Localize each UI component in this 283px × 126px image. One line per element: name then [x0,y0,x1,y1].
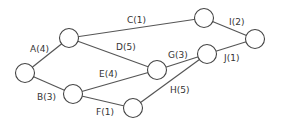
network-diagram: A(4) B(3) C(1) D(5) E(4) F(1) G(3) H(5) … [0,0,283,126]
node-5 [148,61,167,80]
node-4 [124,99,143,118]
edge-label-d: D(5) [116,42,136,52]
node-1 [16,64,35,83]
edge-label-b: B(3) [37,92,56,102]
node-6 [195,9,214,28]
node-3 [64,85,83,104]
edge-label-c: C(1) [127,15,146,25]
edge-d [69,38,157,70]
edge-h [133,54,207,108]
edge-label-g: G(3) [168,50,188,60]
edge-label-a: A(4) [30,44,49,54]
edge-label-e: E(4) [99,69,117,79]
edge-label-f: F(1) [96,107,114,117]
edge-label-j: J(1) [223,53,239,63]
edge-label-i: I(2) [229,17,244,27]
edge-label-h: H(5) [170,85,190,95]
node-2 [60,29,79,48]
node-7 [198,45,217,64]
node-8 [246,30,265,49]
